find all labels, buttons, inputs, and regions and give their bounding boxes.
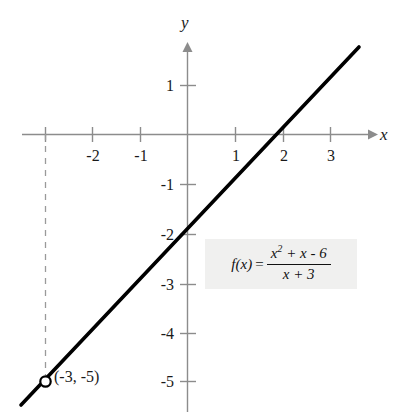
coordinate-plane <box>0 0 403 419</box>
y-tick-label--1: -1 <box>140 177 174 193</box>
x-tick-label-1: 1 <box>232 148 240 164</box>
x-axis-arrowhead <box>368 130 378 140</box>
x-tick-label--1: -1 <box>134 148 147 164</box>
formula-equals-sign: = <box>255 256 263 273</box>
y-tick-label--2: -2 <box>140 227 174 243</box>
hole-open-circle <box>40 376 50 386</box>
y-axis-label: y <box>181 14 189 31</box>
x-tick-label--2: -2 <box>86 148 99 164</box>
y-axis-arrowhead <box>183 42 193 52</box>
graph-figure: y x -2 -1 1 2 3 1 -1 -2 -3 -4 -5 (-3, -5… <box>0 0 403 419</box>
formula-fraction: x2 + x - 6 x + 3 <box>267 245 331 283</box>
y-tick-label--5: -5 <box>140 374 174 390</box>
formula-box: f(x) = x2 + x - 6 x + 3 <box>205 239 357 289</box>
x-tick-label-2: 2 <box>280 148 288 164</box>
formula-function-name: f(x) <box>231 256 252 273</box>
formula-numerator: x2 + x - 6 <box>267 245 331 263</box>
y-tick-label-1: 1 <box>140 78 174 94</box>
x-tick-label-3: 3 <box>327 148 335 164</box>
hole-point-label: (-3, -5) <box>54 369 99 385</box>
y-tick-label--3: -3 <box>140 277 174 293</box>
numerator-rest: + x - 6 <box>282 245 326 261</box>
x-axis-label: x <box>380 126 388 143</box>
formula-expression: f(x) = x2 + x - 6 x + 3 <box>231 245 330 283</box>
formula-denominator: x + 3 <box>279 265 319 283</box>
y-tick-label--4: -4 <box>140 326 174 342</box>
function-line <box>21 47 359 405</box>
